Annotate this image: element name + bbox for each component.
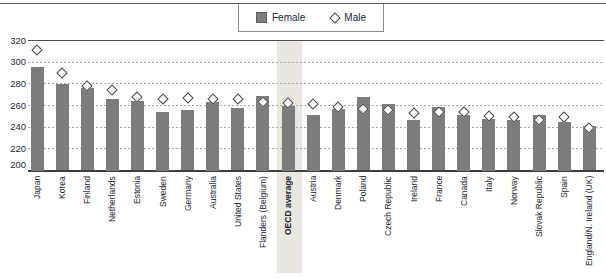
x-axis-label-spain: Spain (557, 176, 571, 273)
bar-canada (457, 115, 470, 170)
y-axis-tick-240: 240 (2, 121, 26, 132)
bar-finland (81, 88, 94, 170)
y-axis-tick-320: 320 (2, 35, 26, 46)
x-axis-label-australia: Australia (206, 176, 220, 273)
y-axis-tick-220: 220 (2, 143, 26, 154)
bar-korea (56, 84, 69, 171)
x-axis-label-italy: Italy (482, 176, 496, 273)
diamond-united-states (232, 93, 243, 104)
x-axis-label-korea: Korea (55, 176, 69, 273)
x-axis-label-austria: Austria (306, 176, 320, 273)
x-axis-label-france: France (432, 176, 446, 273)
female-bar-swatch-icon (256, 12, 267, 23)
gridline-280 (28, 83, 604, 84)
legend-item-male: Male (331, 12, 366, 23)
diamond-ireland (408, 107, 419, 118)
bar-estonia (131, 101, 144, 170)
male-diamond-swatch-icon (330, 12, 341, 23)
bar-norway (507, 120, 520, 171)
x-axis-label-estonia: Estonia (130, 176, 144, 273)
bar-oecd-average (282, 106, 295, 171)
x-axis-label-poland: Poland (356, 176, 370, 273)
y-axis-tick-280: 280 (2, 78, 26, 89)
x-axis-label-oecd-average: OECD average (281, 176, 295, 273)
x-axis-label-united-states: United States (231, 176, 245, 273)
legend-female-label: Female (272, 12, 305, 23)
bar-ireland (407, 120, 420, 171)
x-axis-label-finland: Finland (80, 176, 94, 273)
bar-united-states (231, 108, 244, 171)
y-axis-tick-300: 300 (2, 56, 26, 67)
y-axis-tick-200: 200 (2, 159, 26, 170)
diamond-netherlands (107, 85, 118, 96)
x-axis-label-ireland: Ireland (407, 176, 421, 273)
bar-australia (206, 102, 219, 170)
x-axis-label-denmark: Denmark (331, 176, 345, 273)
bar-netherlands (106, 99, 119, 171)
x-axis-label-england-n-ireland-uk: England/N. Ireland (UK) (582, 176, 596, 273)
diamond-japan (31, 45, 42, 56)
bar-germany (181, 110, 194, 171)
diamond-germany (182, 92, 193, 103)
legend-item-female: Female (256, 12, 305, 23)
plot-area: 200220240260280300320JapanKoreaFinlandNe… (0, 0, 606, 278)
x-axis-label-czech-republic: Czech Republic (381, 176, 395, 273)
bar-sweden (156, 112, 169, 171)
gridline-300 (28, 62, 604, 63)
diamond-sweden (157, 93, 168, 104)
gridline-320 (28, 40, 604, 41)
bar-austria (307, 115, 320, 170)
bar-denmark (332, 109, 345, 171)
bar-italy (482, 119, 495, 171)
diamond-korea (56, 67, 67, 78)
x-axis-label-germany: Germany (181, 176, 195, 273)
x-axis-label-slovak-republic: Slovak Republic (532, 176, 546, 273)
bar-spain (558, 122, 571, 171)
legend-male-label: Male (344, 12, 366, 23)
y-axis-tick-260: 260 (2, 100, 26, 111)
x-axis-label-norway: Norway (507, 176, 521, 273)
diamond-austria (307, 99, 318, 110)
bar-japan (31, 67, 44, 171)
x-axis-label-flanders-belgium: Flanders (Belgium) (256, 176, 270, 273)
adult-skills-gender-chart: Female Male 200220240260280300320JapanKo… (0, 0, 606, 278)
x-axis-label-canada: Canada (457, 176, 471, 273)
x-axis-label-netherlands: Netherlands (105, 176, 119, 273)
chart-legend: Female Male (238, 3, 384, 32)
x-axis-label-sweden: Sweden (156, 176, 170, 273)
x-axis-label-japan: Japan (30, 176, 44, 273)
